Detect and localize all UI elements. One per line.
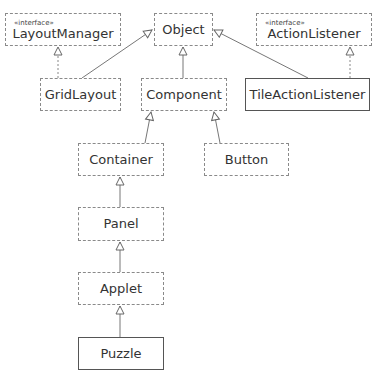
class-name: Container: [89, 153, 153, 167]
class-name: Panel: [103, 217, 138, 231]
class-panel: Panel: [78, 207, 164, 241]
class-gridlayout: GridLayout: [40, 78, 121, 111]
class-applet: Applet: [78, 272, 164, 305]
class-name: Applet: [100, 282, 142, 296]
class-tileactionlistener: TileActionListener: [245, 78, 370, 111]
class-layoutmanager: «interface» LayoutManager: [5, 13, 121, 46]
class-name: LayoutManager: [12, 27, 113, 41]
edge-container-component: [145, 112, 151, 143]
class-container: Container: [78, 143, 164, 176]
class-name: Puzzle: [100, 347, 141, 361]
edge-button-component: [214, 112, 220, 143]
class-name: Component: [146, 88, 221, 102]
class-object: Object: [154, 13, 213, 46]
class-name: TileActionListener: [250, 88, 366, 102]
class-puzzle: Puzzle: [78, 337, 164, 370]
class-button: Button: [204, 143, 289, 176]
class-name: GridLayout: [45, 88, 116, 102]
class-name: Object: [162, 23, 204, 37]
class-name: Button: [225, 153, 269, 167]
class-actionlistener: «interface» ActionListener: [256, 13, 372, 46]
relation-edges: [0, 0, 382, 380]
class-name: ActionListener: [267, 27, 360, 41]
class-component: Component: [141, 78, 227, 111]
